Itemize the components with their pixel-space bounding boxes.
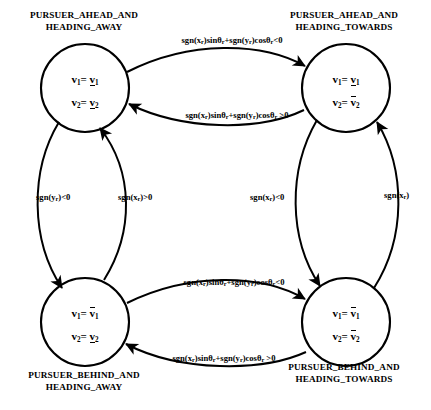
transition-arrow-right-up[interactable] (374, 122, 398, 288)
state-value-row-v1: v1= v1 (302, 304, 390, 327)
edge-label-top-back: sgn(xr)sinθr+sgn(yr)cosθr >0 (185, 110, 288, 120)
transition-arrow-top-forward[interactable] (127, 48, 305, 72)
state-caption-pursuer-behind-and-heading-towards: PURSUER_BEHIND_AND HEADING_TOWARDS (262, 362, 426, 385)
state-value-row-v1: v1= v1 (41, 304, 129, 327)
edge-label-right-up: sgn(xr) (384, 190, 409, 200)
transition-arrow-left-down[interactable] (38, 122, 62, 288)
edge-label-right-down: sgn(xr)<0 (250, 192, 284, 202)
edge-label-bottom-forward: sgn(xr)sinθr+sgn(yr)cosθr<0 (184, 277, 285, 287)
state-caption-pursuer-behind-and-heading-away: PURSUER_BEHIND_AND HEADING_AWAY (4, 370, 164, 393)
state-values-pursuer-behind-and-heading-away: v1= v1 v2= v2 (41, 304, 129, 349)
edge-label-top-forward: sgn(xr)sinθr+sgn(yr)cosθr<0 (182, 35, 283, 45)
state-value-row-v2: v2= v2 (41, 93, 129, 116)
state-values-pursuer-ahead-and-heading-towards: v1= v1 v2= v2 (302, 70, 390, 115)
state-value-row-v1: v1= v1 (302, 70, 390, 93)
state-caption-pursuer-ahead-and-heading-towards: PURSUER_AHEAD_AND HEADING_TOWARDS (264, 10, 424, 33)
transition-arrow-right-down[interactable] (296, 120, 320, 286)
state-value-row-v2: v2= v2 (302, 93, 390, 116)
state-values-pursuer-behind-and-heading-towards: v1= v1 v2= v2 (302, 304, 390, 349)
edge-label-left-up: sgn(xr)>0 (118, 192, 152, 202)
state-caption-pursuer-ahead-and-heading-away: PURSUER_AHEAD_AND HEADING_AWAY (8, 10, 160, 33)
state-values-pursuer-ahead-and-heading-away: v1= v1 v2= v2 (41, 70, 129, 115)
transition-arrow-left-up[interactable] (100, 128, 126, 280)
state-diagram: PURSUER_AHEAD_AND HEADING_AWAY PURSUER_A… (0, 0, 431, 410)
edge-label-left-down: sgn(yr)<0 (36, 192, 70, 202)
state-value-row-v2: v2= v2 (41, 327, 129, 350)
state-value-row-v1: v1= v1 (41, 70, 129, 93)
state-value-row-v2: v2= v2 (302, 327, 390, 350)
edge-label-bottom-back: sgn(xr)sinθr+sgn(yr)cosθr >0 (172, 353, 275, 363)
